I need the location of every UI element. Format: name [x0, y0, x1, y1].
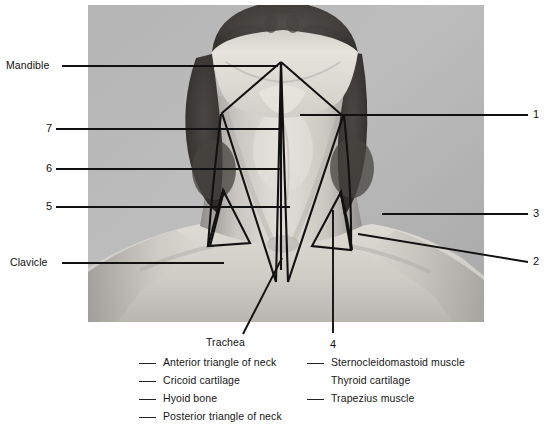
label-5: 5: [46, 201, 52, 212]
answer-label: Anterior triangle of neck: [163, 356, 276, 368]
answer-label: Sternocleidomastoid muscle: [331, 356, 465, 368]
answer-key-item[interactable]: Anterior triangle of neck: [139, 356, 282, 374]
answer-key: Anterior triangle of neck Cricoid cartil…: [0, 356, 554, 439]
answer-label: Thyroid cartilage: [331, 374, 410, 386]
answer-key-left-column: Anterior triangle of neck Cricoid cartil…: [139, 356, 282, 428]
label-6: 6: [46, 163, 52, 174]
answer-key-item[interactable]: Thyroid cartilage: [307, 374, 465, 392]
answer-blank[interactable]: [307, 363, 324, 364]
neck-photograph: [88, 4, 484, 322]
answer-blank[interactable]: [307, 399, 324, 400]
answer-key-item[interactable]: Sternocleidomastoid muscle: [307, 356, 465, 374]
label-7: 7: [46, 123, 52, 134]
answer-key-item[interactable]: Cricoid cartilage: [139, 374, 282, 392]
answer-blank[interactable]: [139, 363, 156, 364]
label-2: 2: [533, 256, 539, 267]
answer-key-item[interactable]: Trapezius muscle: [307, 392, 465, 410]
answer-key-item[interactable]: Posterior triangle of neck: [139, 410, 282, 428]
answer-key-right-column: Sternocleidomastoid muscle Thyroid carti…: [307, 356, 465, 410]
answer-label: Cricoid cartilage: [163, 374, 240, 386]
answer-blank[interactable]: [139, 381, 156, 382]
label-mandible: Mandible: [6, 60, 49, 71]
answer-label: Posterior triangle of neck: [163, 410, 282, 422]
label-clavicle: Clavicle: [10, 257, 48, 268]
answer-label: Trapezius muscle: [331, 392, 415, 404]
label-1: 1: [533, 109, 539, 120]
answer-key-item[interactable]: Hyoid bone: [139, 392, 282, 410]
answer-blank[interactable]: [139, 417, 156, 418]
answer-blank[interactable]: [139, 399, 156, 400]
label-trachea: Trachea: [206, 337, 245, 348]
label-4: 4: [330, 339, 336, 350]
label-3: 3: [533, 208, 539, 219]
answer-label: Hyoid bone: [163, 392, 217, 404]
